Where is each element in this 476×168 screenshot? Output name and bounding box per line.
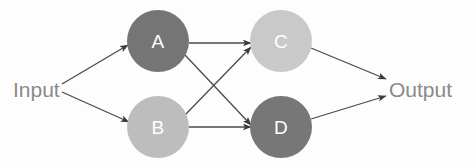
edge-input-to-b [62, 92, 129, 122]
node-label-a: A [152, 31, 165, 52]
nodes-group: ABCD [127, 10, 312, 158]
node-label-d: D [274, 117, 288, 138]
diagram-canvas: ABCD Input Output [0, 0, 476, 168]
node-b[interactable]: B [127, 96, 189, 158]
edge-c-to-output [311, 48, 386, 79]
edge-d-to-output [311, 96, 386, 119]
neural-network-diagram: ABCD Input Output [0, 0, 476, 168]
node-a[interactable]: A [127, 10, 189, 72]
edge-b-to-c [185, 47, 251, 115]
input-label: Input [13, 78, 60, 101]
node-label-b: B [152, 117, 165, 138]
node-c[interactable]: C [250, 10, 312, 72]
node-label-c: C [274, 31, 288, 52]
output-label: Output [389, 78, 452, 101]
node-d[interactable]: D [250, 96, 312, 158]
edges-group [62, 43, 386, 127]
edge-a-to-d [185, 55, 251, 125]
edge-input-to-a [62, 45, 128, 84]
